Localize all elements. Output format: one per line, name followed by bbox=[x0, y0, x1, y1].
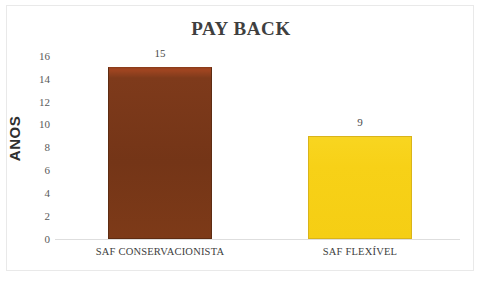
y-tick-4: 4 bbox=[22, 187, 50, 199]
x-axis-baseline bbox=[55, 239, 460, 240]
y-tick-2: 2 bbox=[22, 210, 50, 222]
y-tick-10: 10 bbox=[22, 118, 50, 130]
category-label-saf-flexivel: SAF FLEXÍVEL bbox=[280, 246, 440, 257]
y-tick-0: 0 bbox=[22, 233, 50, 245]
chart-title: PAY BACK bbox=[0, 18, 482, 40]
chart-screenshot: PAY BACK ANOS 16 14 12 10 8 6 4 2 0 15 S… bbox=[0, 0, 482, 282]
y-tick-16: 16 bbox=[22, 50, 50, 62]
y-tick-14: 14 bbox=[22, 73, 50, 85]
y-tick-6: 6 bbox=[22, 164, 50, 176]
y-tick-8: 8 bbox=[22, 141, 50, 153]
category-label-saf-conservacionista: SAF CONSERVACIONISTA bbox=[50, 246, 270, 257]
y-axis-title: ANOS bbox=[6, 109, 23, 169]
bar-value-saf-flexivel: 9 bbox=[308, 116, 412, 128]
bar-value-saf-conservacionista: 15 bbox=[108, 47, 212, 59]
y-tick-12: 12 bbox=[22, 96, 50, 108]
bar-saf-conservacionista[interactable] bbox=[108, 67, 212, 239]
bar-saf-flexivel[interactable] bbox=[308, 136, 412, 239]
